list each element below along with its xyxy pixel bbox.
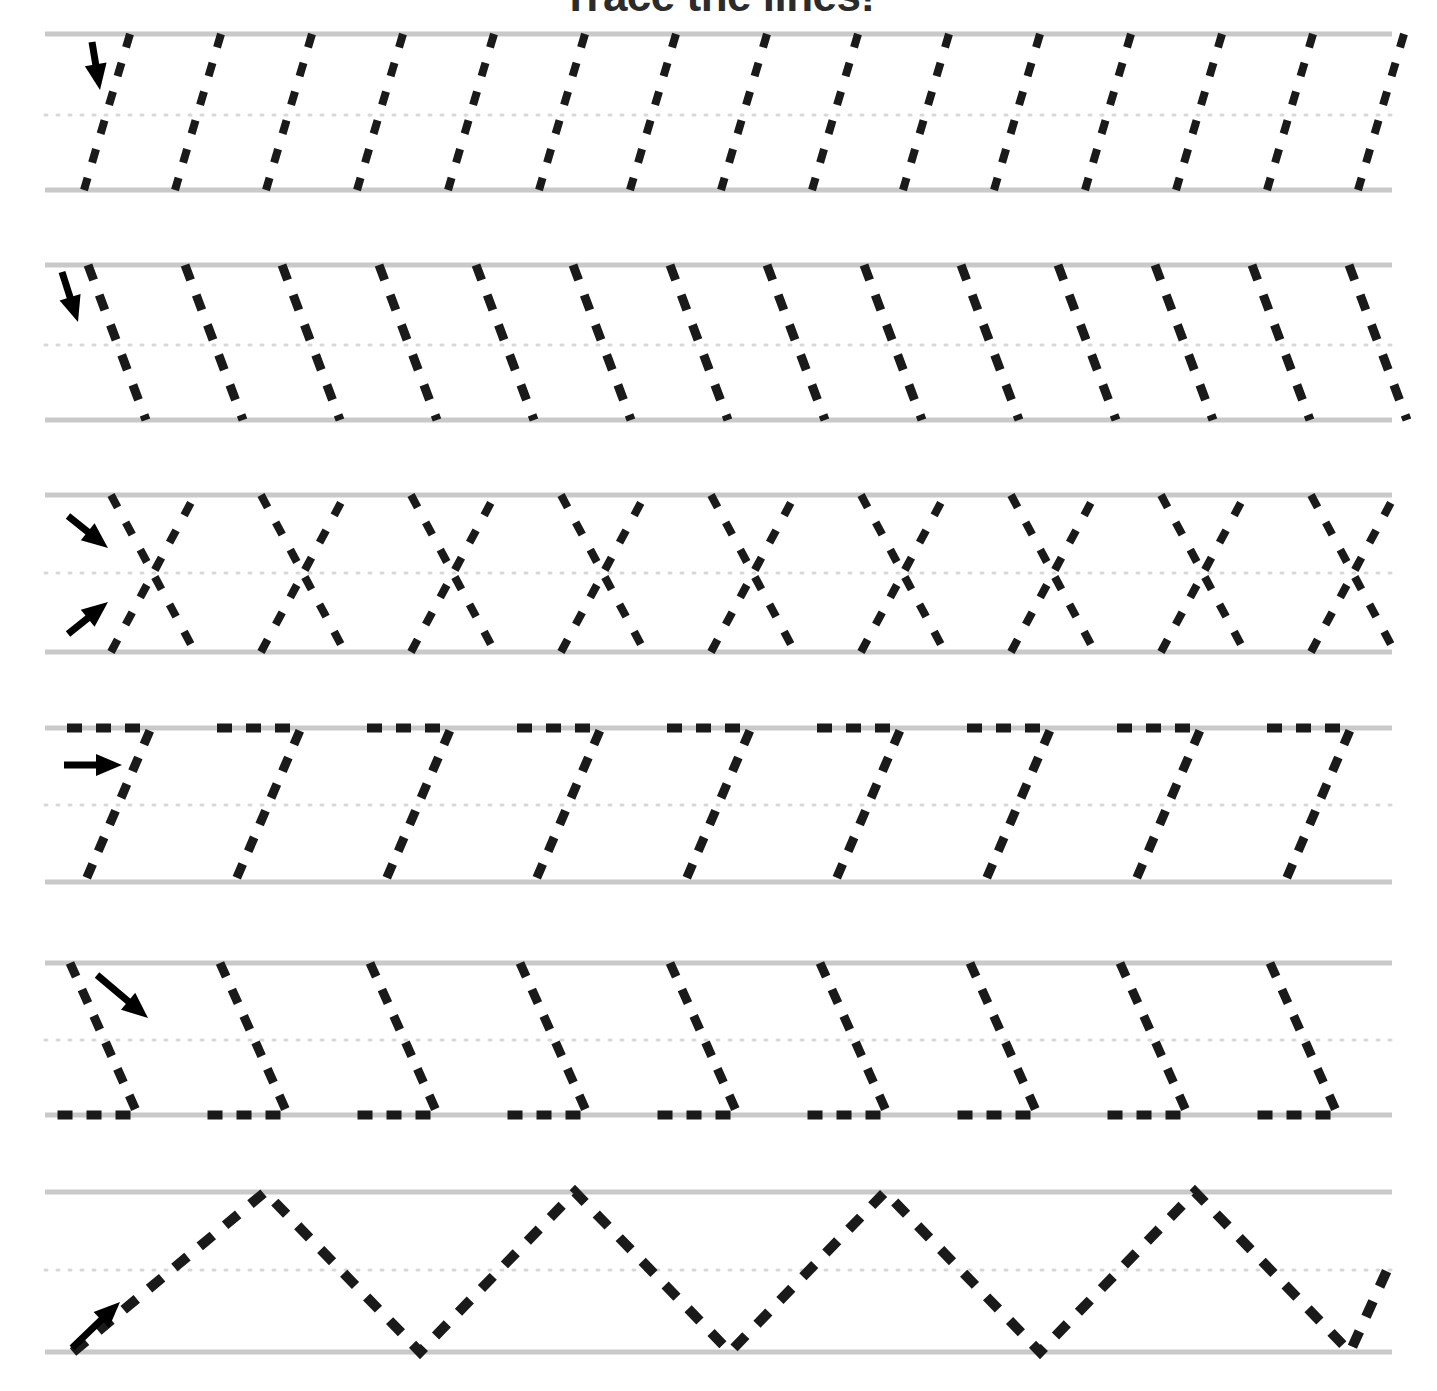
arrow-head — [60, 294, 81, 322]
trace-stroke-diagonal — [539, 34, 585, 190]
trace-stroke-diagonal — [1267, 34, 1313, 190]
trace-stroke-diagonal — [1155, 265, 1213, 420]
trace-stroke-diagonal — [903, 34, 949, 190]
arrow-up-right-icon — [68, 602, 108, 634]
trace-stroke-diagonal — [630, 34, 676, 190]
trace-stroke-diagonal — [448, 34, 494, 190]
trace-stroke-diagonal — [573, 265, 631, 420]
practice-row-2 — [0, 237, 1437, 448]
arrow-down-icon — [85, 42, 107, 90]
trace-stroke-diagonal — [670, 265, 728, 420]
worksheet-page: Trace the lines! — [0, 0, 1437, 1391]
trace-stroke-diagonal — [379, 265, 437, 420]
trace-stroke-diagonal — [84, 34, 130, 190]
arrow-down-right-icon — [68, 516, 108, 548]
trace-stroke-diagonal — [1358, 34, 1404, 190]
trace-stroke-diagonal — [185, 265, 243, 420]
trace-stroke-diagonal — [812, 34, 858, 190]
trace-stroke-diagonal — [864, 265, 922, 420]
trace-stroke-diagonal — [1058, 265, 1116, 420]
trace-stroke-diagonal — [175, 34, 221, 190]
trace-stroke-mountain-zigzag — [73, 1192, 1392, 1352]
trace-stroke-diagonal — [767, 265, 825, 420]
zigzag-top-flat-then-down-left-canvas — [0, 700, 1437, 910]
trace-stroke-diagonal — [1085, 34, 1131, 190]
slanted-strokes-left-lean-canvas — [0, 6, 1437, 218]
trace-stroke-diagonal — [357, 34, 403, 190]
trace-stroke-diagonal — [1176, 34, 1222, 190]
practice-row-3 — [0, 467, 1437, 680]
practice-row-4 — [0, 700, 1437, 910]
practice-row-1 — [0, 6, 1437, 218]
trace-stroke-diagonal — [961, 265, 1019, 420]
trace-stroke-diagonal — [266, 34, 312, 190]
zigzag-down-right-then-flat-bottom-canvas — [0, 935, 1437, 1143]
trace-stroke-diagonal — [1252, 265, 1310, 420]
mountain-zigzag-canvas — [0, 1164, 1437, 1380]
arrow-head — [96, 754, 122, 776]
arrow-right-icon — [64, 754, 122, 776]
steep-slanted-strokes-right-lean-canvas — [0, 237, 1437, 448]
arrow-head — [85, 63, 107, 90]
arrow-down-icon — [60, 272, 81, 322]
trace-stroke-diagonal — [721, 34, 767, 190]
trace-stroke-diagonal — [88, 265, 146, 420]
trace-stroke-diagonal — [282, 265, 340, 420]
practice-row-5 — [0, 935, 1437, 1143]
trace-stroke-diagonal — [1349, 265, 1407, 420]
practice-row-6 — [0, 1164, 1437, 1380]
arrow-shaft — [97, 975, 133, 1005]
trace-stroke-diagonal — [994, 34, 1040, 190]
trace-stroke-diagonal — [476, 265, 534, 420]
arrow-down-right-icon — [97, 975, 148, 1018]
crossed-x-strokes-canvas — [0, 467, 1437, 680]
